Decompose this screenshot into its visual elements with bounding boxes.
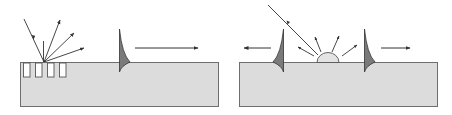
- emission-ray-3-icon: [332, 36, 339, 52]
- emission-ray-4-icon: [342, 45, 357, 56]
- incident-ray-icon: [24, 19, 44, 62]
- reflected-ray-2-icon: [44, 33, 74, 62]
- right-panel: [240, 5, 438, 107]
- diagram-canvas: Surface wave generation: laser ablation …: [0, 0, 452, 115]
- emission-ray-2-icon: [315, 37, 321, 52]
- pit-2: [36, 63, 43, 77]
- incident-ray-icon: [268, 5, 318, 55]
- pit-3: [48, 63, 55, 77]
- pit-4: [60, 63, 67, 77]
- right-substrate-block: [240, 63, 438, 107]
- pit-1: [24, 63, 31, 77]
- dome-bump-icon: [317, 53, 339, 63]
- left-panel: [21, 19, 219, 107]
- reflected-ray-3-icon: [44, 48, 84, 62]
- reflected-ray-1-icon: [44, 20, 60, 62]
- diagram-svg: [0, 0, 452, 115]
